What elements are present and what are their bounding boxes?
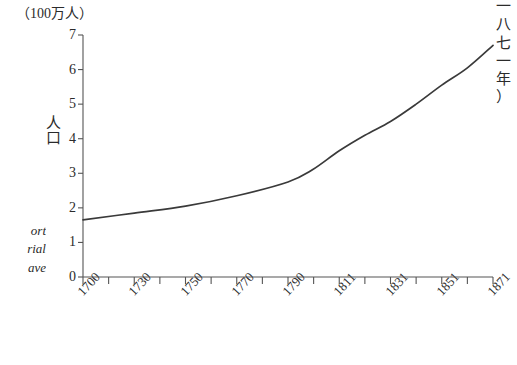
population-line-chart: （100万人） 人 口 ort rial ave 一 八 七 一 年 ） 012…	[0, 0, 517, 365]
population-series-line	[83, 45, 493, 220]
y-axis-ticks	[78, 35, 83, 277]
axes	[78, 35, 493, 284]
plot-area	[0, 0, 517, 365]
x-axis-ticks	[83, 277, 493, 284]
